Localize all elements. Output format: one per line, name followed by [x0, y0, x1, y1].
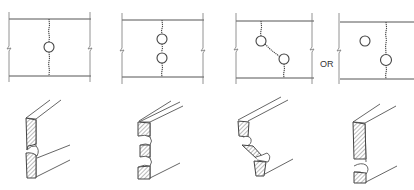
- elevation-panel-4: [337, 13, 414, 84]
- hole-icon: [157, 34, 167, 44]
- section-view-1: [26, 100, 70, 178]
- elevation-panel-2: [120, 13, 205, 84]
- elevation-panel-3: [234, 13, 314, 84]
- section-view-4: [353, 104, 397, 183]
- section-view-2: [138, 101, 183, 179]
- hole-icon: [256, 36, 266, 46]
- hole-icon: [157, 53, 167, 63]
- hole-icon: [360, 36, 370, 46]
- hole-icon: [44, 42, 54, 52]
- section-view-3: [238, 97, 293, 176]
- crack-pattern-diagram: OR: [0, 0, 414, 190]
- hole-icon: [381, 55, 392, 66]
- elevation-panel-1: [7, 12, 92, 82]
- or-label: OR: [320, 59, 334, 69]
- hole-icon: [279, 54, 289, 64]
